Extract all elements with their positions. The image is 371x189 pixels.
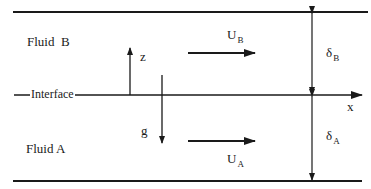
velocity-b-label: UB bbox=[227, 28, 243, 41]
thickness-b-symbol: δ bbox=[326, 45, 332, 60]
thickness-a-label: δA bbox=[326, 129, 340, 142]
velocity-b-subscript: B bbox=[237, 35, 243, 45]
thickness-a-symbol: δ bbox=[326, 128, 332, 143]
thickness-b-label: δB bbox=[326, 46, 339, 59]
fluid-a-label: Fluid A bbox=[26, 142, 65, 155]
fluid-b-label: Fluid B bbox=[27, 35, 70, 48]
velocity-a-subscript: A bbox=[237, 159, 244, 169]
gravity-label: g bbox=[141, 124, 148, 137]
interface-label: Interface bbox=[30, 88, 75, 100]
thickness-b-subscript: B bbox=[333, 53, 339, 63]
x-axis-label: x bbox=[347, 100, 354, 113]
velocity-b-symbol: U bbox=[227, 27, 236, 42]
velocity-a-label: UA bbox=[227, 152, 244, 165]
thickness-a-subscript: A bbox=[333, 136, 340, 146]
velocity-a-symbol: U bbox=[227, 151, 236, 166]
z-axis-label: z bbox=[140, 50, 146, 63]
